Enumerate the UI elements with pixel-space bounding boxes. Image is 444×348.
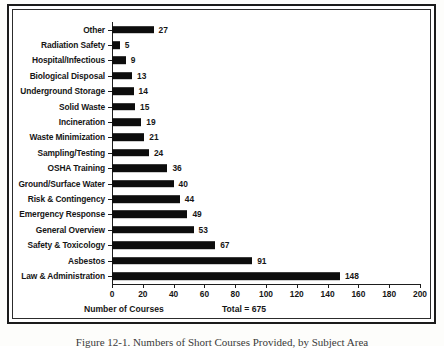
x-tick [204,284,205,288]
bar [112,149,149,157]
bar-row: Incineration19 [112,114,420,129]
x-tick [358,284,359,288]
category-label: Solid Waste [59,102,105,112]
bar [112,226,194,234]
bar-row: Sampling/Testing24 [112,145,420,160]
bar-value-label: 27 [159,25,168,35]
bar [112,41,120,49]
category-label: Incineration [59,117,105,127]
bar-row: Hospital/Infectious9 [112,53,420,68]
bar-value-label: 67 [220,240,229,250]
bar-value-label: 40 [179,179,188,189]
bar-value-label: 21 [149,132,158,142]
x-tick [389,284,390,288]
x-tick-label: 160 [351,289,365,299]
x-tick-label: 20 [138,289,147,299]
x-tick-label: 120 [290,289,304,299]
bar [112,103,135,111]
x-tick [112,284,113,288]
x-tick-label: 100 [259,289,273,299]
bar-value-label: 5 [125,40,130,50]
category-label: Biological Disposal [30,71,105,81]
category-label: Safety & Toxicology [27,240,105,250]
category-label: Waste Minimization [29,132,105,142]
bar-value-label: 148 [345,271,359,281]
bar-row: Radiation Safety5 [112,37,420,52]
x-tick-label: 40 [169,289,178,299]
bar-row: Underground Storage14 [112,84,420,99]
bar [112,195,180,203]
x-tick [297,284,298,288]
category-label: OSHA Training [48,163,105,173]
x-tick-label: 80 [231,289,240,299]
bar-value-label: 15 [140,102,149,112]
bar-value-label: 19 [146,117,155,127]
bar [112,272,340,280]
category-label: Emergency Response [19,209,105,219]
x-tick [328,284,329,288]
bar-row-list: Other27Radiation Safety5Hospital/Infecti… [112,22,420,284]
x-tick-label: 200 [413,289,427,299]
bar-row: General Overview53 [112,222,420,237]
category-label: Underground Storage [20,86,105,96]
bar-row: Asbestos91 [112,253,420,268]
category-label: Ground/Surface Water [18,179,105,189]
bar-value-label: 24 [154,148,163,158]
x-tick [266,284,267,288]
bar [112,211,187,219]
bar [112,134,144,142]
bar [112,241,215,249]
category-label: General Overview [36,225,105,235]
bar [112,257,252,265]
bar-row: Waste Minimization21 [112,130,420,145]
bar-row: Ground/Surface Water40 [112,176,420,191]
bar [112,87,134,95]
bar-value-label: 14 [139,86,148,96]
bar-value-label: 36 [172,163,181,173]
category-label: Sampling/Testing [37,148,105,158]
bar-chart: Other27Radiation Safety5Hospital/Infecti… [7,4,436,324]
bar-row: Biological Disposal13 [112,68,420,83]
x-tick-label: 0 [110,289,115,299]
plot-area: Other27Radiation Safety5Hospital/Infecti… [112,22,420,284]
bar [112,164,167,172]
bar-value-label: 49 [192,209,201,219]
bar-row: Solid Waste15 [112,99,420,114]
x-tick-label: 180 [382,289,396,299]
bar-value-label: 13 [137,71,146,81]
bar-row: Emergency Response49 [112,207,420,222]
bar [112,72,132,80]
x-tick-label: 140 [321,289,335,299]
bar-value-label: 91 [257,256,266,266]
x-axis-title: Number of Courses [84,304,164,314]
category-label: Other [83,25,105,35]
category-label: Radiation Safety [41,40,105,50]
category-label: Risk & Contingency [28,194,105,204]
bar [112,180,174,188]
bar-row: Other27 [112,22,420,37]
total-annotation: Total = 675 [222,304,266,314]
x-tick [143,284,144,288]
bar-row: Safety & Toxicology67 [112,237,420,252]
x-tick-label: 60 [200,289,209,299]
bar [112,26,154,34]
x-tick [235,284,236,288]
bar [112,118,141,126]
bar-row: OSHA Training36 [112,161,420,176]
bar-row: Risk & Contingency44 [112,191,420,206]
category-label: Hospital/Infectious [32,55,105,65]
bar-value-label: 9 [131,55,136,65]
figure-caption: Figure 12-1. Numbers of Short Courses Pr… [0,336,444,348]
category-label: Law & Administration [21,271,105,281]
bar-row: Law & Administration148 [112,268,420,283]
bar [112,57,126,65]
x-tick [420,284,421,288]
x-tick [174,284,175,288]
bar-value-label: 44 [185,194,194,204]
bar-value-label: 53 [199,225,208,235]
category-label: Asbestos [68,256,105,266]
